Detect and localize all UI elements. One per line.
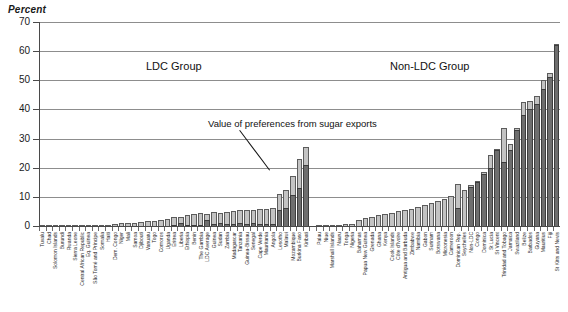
x-axis-label: Burundi	[60, 232, 65, 249]
x-label-slot: Dominica	[481, 232, 488, 312]
x-axis-label: Mauritania	[264, 232, 269, 255]
x-label-slot: Grenada	[369, 232, 376, 312]
bar-segment-other	[218, 213, 224, 223]
bar-column	[92, 22, 99, 226]
bar-segment-other	[251, 210, 257, 223]
bar-segment-other	[257, 209, 263, 224]
bar-segment-other	[422, 205, 428, 226]
x-label-slot: Eritrea	[171, 232, 178, 312]
x-tick	[210, 227, 217, 231]
bar-column	[448, 22, 455, 226]
x-tick	[349, 227, 356, 231]
x-label-slot: Tanzania	[237, 232, 244, 312]
x-tick	[151, 227, 158, 231]
y-tick-label: 30	[0, 133, 30, 144]
x-label-slot: Niger	[118, 232, 125, 312]
bar-segment-other	[244, 210, 250, 224]
x-label-slot: Tuvalu	[39, 232, 46, 312]
bar-column	[85, 22, 92, 226]
x-axis-label: Sudan	[218, 232, 223, 246]
bar-segment-sugar	[468, 187, 474, 226]
bar-segment-other	[541, 80, 547, 89]
x-axis-label: Madagascar	[231, 232, 236, 260]
x-axis-label: Angola	[271, 232, 276, 248]
bar-column	[46, 22, 53, 226]
bar-column	[191, 22, 198, 226]
y-tick-label: 50	[0, 74, 30, 85]
x-tick	[336, 227, 343, 231]
x-axis-label: Tuvalu	[40, 232, 45, 247]
bar-segment-other	[369, 217, 375, 226]
x-axis-label: Uganda	[165, 232, 170, 250]
bar-segment-other	[448, 196, 454, 226]
y-axis-title: Percent	[8, 4, 46, 15]
bar-segment-other	[363, 218, 369, 226]
bar-segment-other	[396, 211, 402, 226]
group-label-ldc: LDC Group	[146, 60, 202, 72]
bar-segment-other	[303, 147, 309, 164]
x-tick	[65, 227, 72, 231]
x-axis-label: Zimbabwe	[409, 232, 414, 255]
x-label-slot: Botswana	[435, 232, 442, 312]
x-tick	[118, 227, 125, 231]
x-axis-label: St Lucia	[488, 232, 493, 250]
x-axis-label: São Tomé and Príncipe	[93, 232, 98, 284]
bar-column	[65, 22, 72, 226]
bar-segment-sugar	[455, 208, 461, 226]
bar-column	[428, 22, 435, 226]
bar-segment-sugar	[554, 45, 560, 226]
x-label-slot: Somalia	[98, 232, 105, 312]
x-tick	[481, 227, 488, 231]
bar-column	[527, 22, 534, 226]
x-label-slot: Benin	[191, 232, 198, 312]
x-tick	[197, 227, 204, 231]
bar-column	[540, 22, 547, 226]
x-tick	[428, 227, 435, 231]
bar-column	[112, 22, 119, 226]
x-label-slot: LDC Average	[204, 232, 211, 312]
callout-label: Value of preferences from sugar exports	[208, 118, 377, 129]
x-tick	[547, 227, 554, 231]
x-tick	[507, 227, 514, 231]
bar-column	[534, 22, 541, 226]
x-axis-label: Nigeria	[350, 232, 355, 248]
x-tick	[395, 227, 402, 231]
bar-column	[197, 22, 204, 226]
x-axis-label: St Vincent	[495, 232, 500, 255]
x-tick	[243, 227, 250, 231]
bar-column	[501, 22, 508, 226]
bar-segment-other	[211, 212, 217, 224]
bar-segment-sugar	[541, 89, 547, 226]
x-tick	[448, 227, 455, 231]
x-axis-label: Marshall Islands	[330, 232, 335, 268]
bar-column	[388, 22, 395, 226]
bar-segment-sugar	[527, 109, 533, 226]
x-axis-label: Rwanda	[66, 232, 71, 250]
y-tick-label: 0	[0, 220, 30, 231]
x-axis-label: Belize	[521, 232, 526, 246]
x-axis-label: Tanzania	[238, 232, 243, 252]
bar-segment-other	[435, 201, 441, 226]
x-tick	[382, 227, 389, 231]
x-axis-label: Somalia	[99, 232, 104, 250]
x-label-slot: Cameroon	[448, 232, 455, 312]
x-tick	[553, 227, 560, 231]
bar-column	[39, 22, 46, 226]
bar-column	[408, 22, 415, 226]
x-tick	[520, 227, 527, 231]
bar-column	[52, 22, 59, 226]
x-axis-label: Kiribati	[304, 232, 309, 247]
bar-column	[507, 22, 514, 226]
x-label-slot: Mauritius	[540, 232, 547, 312]
x-axis-label: Swaziland	[515, 232, 520, 255]
bar-column	[421, 22, 428, 226]
x-tick	[177, 227, 184, 231]
bar-segment-other	[409, 209, 415, 226]
bar-column	[131, 22, 138, 226]
bar-segment-other	[429, 203, 435, 226]
bar-segment-other	[389, 213, 395, 226]
x-tick	[270, 227, 277, 231]
x-label-slot: São Tomé and Príncipe	[92, 232, 99, 312]
x-tick	[342, 227, 349, 231]
bar-segment-other	[165, 219, 171, 226]
